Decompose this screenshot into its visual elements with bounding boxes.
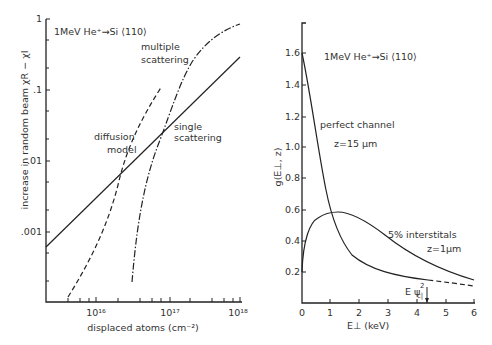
annotation-multiple: multiple — [141, 41, 180, 52]
perfect-channel-extrapolated — [428, 280, 474, 286]
left-x-ticks — [68, 297, 240, 302]
svg-text:1: 1 — [327, 307, 333, 318]
svg-text:10¹⁸: 10¹⁸ — [228, 307, 248, 318]
left-title: 1MeV He⁺→Si ⟨110⟩ — [54, 26, 147, 37]
svg-text:1.6: 1.6 — [285, 47, 300, 58]
right-axes — [302, 23, 475, 303]
svg-text:.1: .1 — [33, 84, 42, 95]
svg-text:1.2: 1.2 — [285, 111, 300, 122]
annotation-single: single — [174, 121, 202, 132]
perfect-channel-curve — [302, 53, 428, 280]
annotation-diffusion: diffusion — [94, 131, 135, 142]
svg-text:0: 0 — [299, 307, 305, 318]
svg-text:10¹⁷: 10¹⁷ — [160, 307, 180, 318]
annotation-scattering-single: scattering — [174, 132, 222, 143]
right-y-tick-labels: 1.6 1.4 1.2 1.0 0.8 0.6 0.4 0.2 — [285, 47, 300, 277]
svg-text:1.4: 1.4 — [285, 79, 300, 90]
svg-text:0.2: 0.2 — [285, 266, 300, 277]
svg-text:0.8: 0.8 — [285, 172, 300, 183]
annotation-interstitials: 5% interstitals — [388, 229, 457, 240]
annotation-scattering-multiple: scattering — [141, 54, 189, 65]
diffusion-model-line — [68, 86, 162, 297]
annotation-model: model — [107, 144, 137, 155]
figure: 1 .1 .01 .001 10¹⁶ 10¹⁷ 10¹⁸ dis — [0, 0, 492, 345]
single-scattering-line — [46, 57, 240, 247]
annotation-perfect-channel: perfect channel — [320, 119, 395, 130]
svg-text:10¹⁶: 10¹⁶ — [86, 307, 106, 318]
right-title: 1MeV He⁺→Si ⟨110⟩ — [324, 51, 417, 62]
annotation-e-psi-sub: c| — [417, 292, 423, 300]
right-x-tick-labels: 0 1 2 3 4 5 6 — [299, 307, 477, 318]
svg-text:0.4: 0.4 — [285, 235, 300, 246]
arrow-down-icon — [425, 298, 429, 303]
svg-text:2: 2 — [356, 307, 362, 318]
svg-text:1: 1 — [36, 13, 42, 24]
left-x-label: displaced atoms (cm⁻²) — [87, 322, 199, 333]
right-x-label: E⊥ (keV) — [347, 320, 389, 331]
svg-text:3: 3 — [385, 307, 391, 318]
svg-text:5: 5 — [443, 307, 449, 318]
left-y-label: increase in random beam χR − χI — [19, 51, 30, 210]
svg-text:1.0: 1.0 — [285, 141, 300, 152]
annotation-z15: z=15 µm — [334, 138, 377, 149]
svg-text:0.6: 0.6 — [285, 204, 300, 215]
annotation-e-psi-sup: 2 — [420, 282, 424, 290]
svg-text:6: 6 — [471, 307, 477, 318]
left-x-tick-labels: 10¹⁶ 10¹⁷ 10¹⁸ — [86, 307, 248, 318]
annotation-z1: z=1µm — [427, 243, 461, 254]
right-y-label: g(E⊥, z) — [272, 148, 283, 187]
svg-text:.001: .001 — [21, 226, 42, 237]
right-chart: 1.6 1.4 1.2 1.0 0.8 0.6 0.4 0.2 0 1 2 3 … — [272, 23, 477, 331]
svg-text:4: 4 — [414, 307, 420, 318]
left-chart: 1 .1 .01 .001 10¹⁶ 10¹⁷ 10¹⁸ dis — [19, 13, 248, 333]
